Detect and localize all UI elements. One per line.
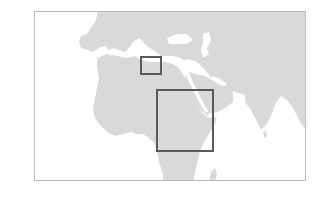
highlight-box-large xyxy=(156,89,214,152)
bay-of-bengal xyxy=(273,104,297,138)
madagascar xyxy=(209,168,217,181)
sri-lanka xyxy=(263,131,267,138)
highlight-box-small xyxy=(140,56,162,75)
map-figure xyxy=(0,0,334,198)
